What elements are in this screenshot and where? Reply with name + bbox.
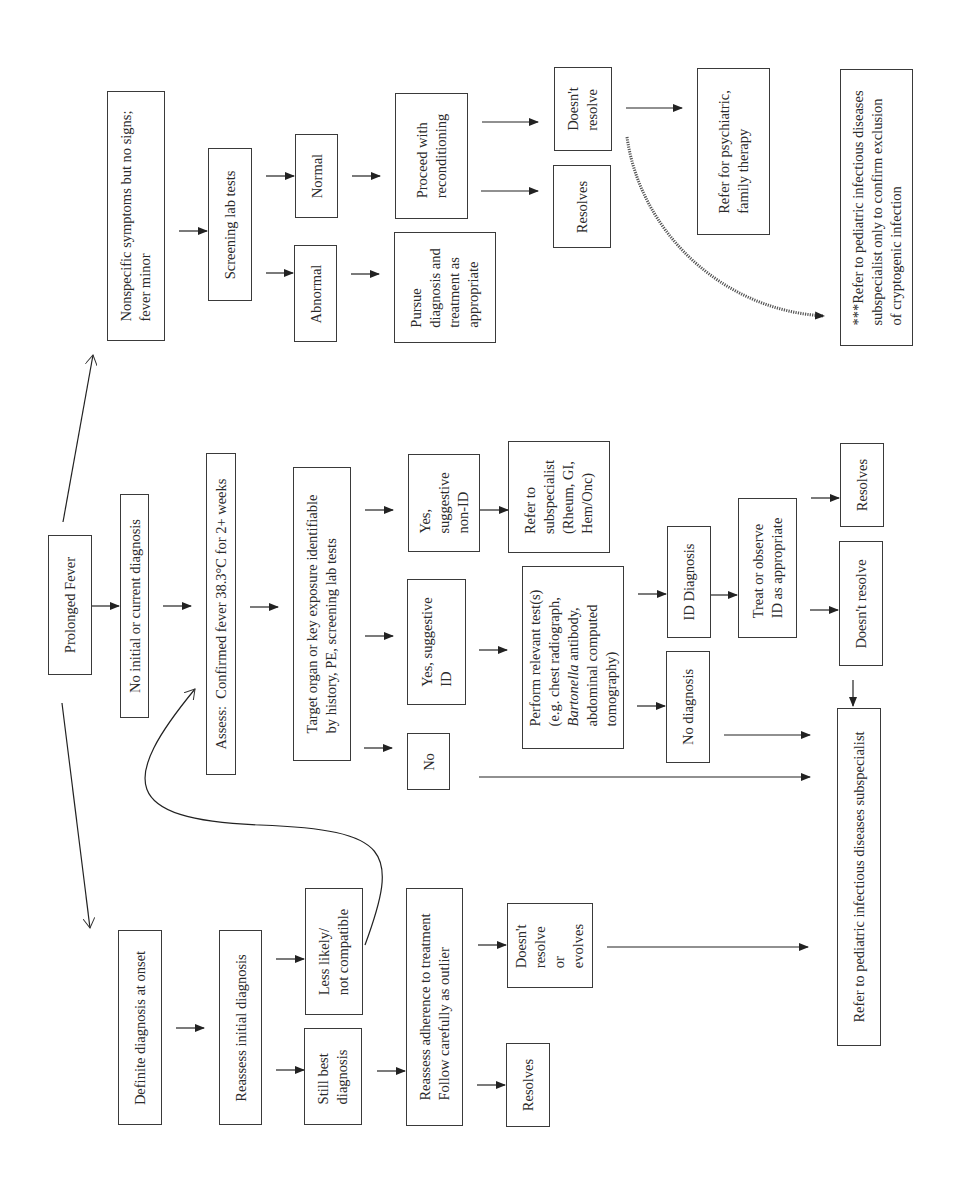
arrow-root-to-nonspecific bbox=[63, 355, 93, 522]
node-no-diagnosis: No diagnosis bbox=[666, 651, 710, 763]
node-resolves-right: Resolves bbox=[840, 443, 884, 527]
node-yes-non-id: Yes, suggestive non-ID bbox=[408, 454, 480, 552]
node-reassess-adherence: Reassess adherence to treatment Follow c… bbox=[406, 888, 463, 1126]
node-doesnt-resolve-evolves: Doesn't resolve or evolves bbox=[507, 903, 593, 988]
node-nonspecific-symptoms: Nonspecific symptoms but no signs; fever… bbox=[107, 91, 165, 341]
node-prolonged-fever: Prolonged Fever bbox=[48, 535, 92, 675]
node-resolves-bottom: Resolves bbox=[506, 1043, 550, 1127]
node-still-best: Still best diagnosis bbox=[304, 1028, 362, 1125]
node-proceed-reconditioning: Proceed with reconditioning bbox=[395, 93, 468, 219]
node-abnormal: Abnormal bbox=[294, 245, 337, 342]
arrow-root-to-definite bbox=[62, 703, 90, 928]
node-yes-id: Yes, suggestive ID bbox=[407, 579, 466, 705]
node-doesnt-resolve-right: Doesn't resolve bbox=[839, 541, 883, 666]
node-normal: Normal bbox=[295, 134, 338, 218]
node-reassess-initial: Reassess initial diagnosis bbox=[219, 930, 262, 1125]
node-id-diagnosis: ID Diagnosis bbox=[667, 526, 711, 638]
node-assess-fever: Assess: Confirmed fever 38.3°C for 2+ we… bbox=[206, 453, 236, 775]
node-refer-id-note: ***Refer to pediatric infectious disease… bbox=[840, 69, 913, 346]
node-target-organ: Target organ or key exposure identifiabl… bbox=[293, 467, 351, 761]
node-resolves-top: Resolves bbox=[553, 165, 611, 248]
node-definite-diagnosis: Definite diagnosis at onset bbox=[118, 930, 162, 1125]
node-refer-subspecialist: Refer to subspecialist (Rheum, GI, Hem/O… bbox=[508, 441, 610, 553]
node-treat-observe: Treat or observe ID as appropriate bbox=[738, 498, 797, 638]
node-less-likely: Less likely/ not compatible bbox=[305, 888, 363, 1015]
node-perform-tests: Perform relevant test(s) (e.g. chest rad… bbox=[522, 566, 624, 749]
node-no-initial-diagnosis: No initial or current diagnosis bbox=[120, 494, 149, 718]
node-refer-id-subspecialist: Refer to pediatric infectious diseases s… bbox=[837, 708, 881, 1046]
node-screening-lab-tests: Screening lab tests bbox=[208, 148, 252, 301]
node-refer-psychiatric: Refer for psychiatric, family therapy bbox=[697, 68, 770, 235]
node-no: No bbox=[407, 733, 450, 790]
node-doesnt-resolve-top: Doesn't resolve bbox=[554, 67, 612, 151]
node-pursue-diagnosis: Pursue diagnosis and treatment as approp… bbox=[394, 232, 496, 343]
